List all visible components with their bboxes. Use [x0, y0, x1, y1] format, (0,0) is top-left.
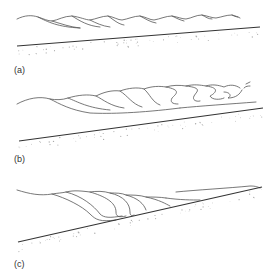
sediment-dot	[69, 47, 70, 48]
sediment-dot	[155, 218, 156, 219]
sediment-dot	[211, 122, 212, 123]
sediment-dot	[22, 50, 23, 51]
panel-b-breaker-4	[120, 91, 142, 107]
sediment-dot	[181, 209, 182, 210]
panel-c-wave-profile	[17, 190, 166, 198]
sediment-dot	[249, 118, 250, 119]
panel-a-breaker-5	[108, 16, 124, 25]
sediment-dot	[139, 128, 140, 129]
sediment-dot	[72, 45, 73, 46]
sediment-dot	[87, 228, 88, 229]
sediment-dot	[177, 42, 178, 43]
panel-b-breaker-7	[186, 86, 200, 101]
sediment-dot	[22, 249, 23, 250]
sediment-dot	[184, 122, 185, 123]
sediment-dot	[49, 144, 50, 145]
panel-c-breaker-5	[126, 195, 146, 210]
sediment-dot	[234, 33, 235, 34]
sediment-dot	[57, 145, 58, 146]
sediment-dot	[147, 128, 148, 129]
sediment-dot	[130, 225, 131, 226]
sediment-dot	[249, 194, 250, 195]
sediment-dot	[180, 37, 181, 38]
sediment-dot	[235, 116, 236, 117]
sediment-dot	[76, 46, 77, 47]
sediment-dot	[138, 45, 139, 46]
sediment-dot	[195, 204, 196, 205]
sediment-dot	[53, 237, 54, 238]
sediment-dot	[77, 232, 78, 233]
sediment-dot	[94, 134, 95, 135]
sediment-dot	[202, 202, 203, 203]
sediment-dot	[123, 42, 124, 43]
sediment-dot	[40, 142, 41, 143]
sediment-dot	[237, 35, 238, 36]
sediment-dot	[36, 54, 37, 55]
sediment-dot	[137, 39, 138, 40]
sediment-dot	[219, 39, 220, 40]
sediment-dot	[257, 34, 258, 35]
sediment-dot	[180, 213, 181, 214]
sediment-dot	[185, 126, 186, 127]
sediment-dot	[117, 44, 118, 45]
panel-a	[17, 15, 260, 46]
panel-b-seabed	[19, 108, 263, 141]
sediment-dot	[126, 128, 127, 129]
sediment-dot	[238, 114, 239, 115]
sediment-dot	[238, 199, 239, 200]
sediment-dot	[203, 203, 204, 204]
sediment-dot	[250, 116, 251, 117]
sediment-dot	[212, 202, 213, 203]
panel-c-breaker-7	[166, 198, 200, 200]
sediment-dot	[47, 239, 48, 240]
sediment-dot	[46, 52, 47, 53]
sediment-dot	[235, 121, 236, 122]
sediment-dot	[147, 218, 148, 219]
sediment-dot	[31, 144, 32, 145]
sediment-dot	[253, 116, 254, 117]
sediment-dot	[229, 118, 230, 119]
panel-b-wave-profile	[17, 85, 240, 104]
sediment-dot	[153, 41, 154, 42]
sediment-dot	[230, 201, 231, 202]
sediment-dot	[22, 244, 23, 245]
sediment-dot	[210, 208, 211, 209]
panel-b-breaker-9	[224, 90, 242, 98]
sediment-dot	[104, 41, 105, 42]
sediment-dot	[180, 125, 181, 126]
sediment-dot	[103, 133, 104, 134]
sediment-dot	[252, 36, 253, 37]
sediment-dot	[130, 39, 131, 40]
sediment-dot	[60, 239, 61, 240]
sediment-dot	[161, 124, 162, 125]
sediment-dot	[76, 236, 77, 237]
sediment-dot	[20, 147, 21, 148]
sediment-dot	[204, 36, 205, 37]
panel-a-breaker-3	[72, 16, 100, 27]
sediment-dot	[113, 131, 114, 132]
panel-b-breaker-2	[68, 98, 110, 110]
sediment-dot	[59, 137, 60, 138]
sediment-dot	[94, 137, 95, 138]
sediment-dot	[198, 38, 199, 39]
panel-a-breaker-9	[232, 15, 238, 17]
sediment-dot	[94, 233, 95, 234]
panel-b-breaker-1	[50, 99, 180, 113]
sediment-dot	[221, 117, 222, 118]
sediment-dot	[157, 125, 158, 126]
sediment-dot	[124, 40, 125, 41]
panel-b-breaker-5	[144, 89, 160, 105]
sediment-dot	[185, 211, 186, 212]
sediment-dot	[163, 39, 164, 40]
sediment-dot	[31, 242, 32, 243]
sediment-dot	[131, 129, 132, 130]
panel-a-breaker-6	[140, 16, 156, 23]
sediment-dot	[168, 36, 169, 37]
sediment-dot	[19, 53, 20, 54]
sediment-stipple	[18, 32, 262, 252]
sediment-dot	[80, 234, 81, 235]
panel-b-breaker-3	[96, 96, 124, 108]
sediment-dot	[128, 46, 129, 47]
sediment-dot	[126, 40, 127, 41]
sediment-dot	[118, 224, 119, 225]
